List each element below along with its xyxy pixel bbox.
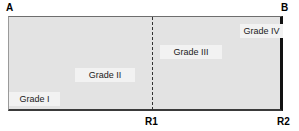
region-label-grade-2: Grade II <box>75 68 135 82</box>
region-label-grade-3: Grade III <box>160 45 222 59</box>
region-label-grade-1: Grade I <box>9 92 60 106</box>
endpoint-label-b: B <box>281 2 288 13</box>
region-label-grade-4: Grade IV <box>240 24 283 38</box>
endpoint-label-r2: R2 <box>277 116 290 127</box>
endpoint-label-a: A <box>6 2 13 13</box>
r1-dashed-divider <box>152 17 153 110</box>
diagram-canvas: A B R1 R2 Grade I Grade II Grade III Gra… <box>0 0 299 131</box>
endpoint-label-r1: R1 <box>145 116 158 127</box>
